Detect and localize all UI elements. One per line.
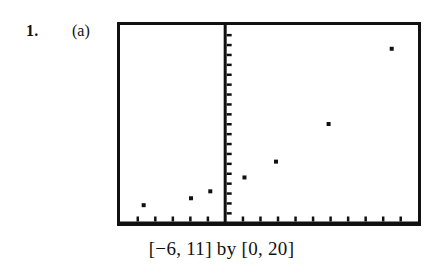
y-axis-tick (227, 133, 232, 136)
y-axis-tick (227, 173, 232, 176)
x-axis-tick (277, 217, 280, 222)
exercise-part-label: (a) (72, 22, 90, 40)
y-axis-tick (227, 64, 232, 67)
y-axis-tick (227, 83, 232, 86)
x-axis-ticks (137, 217, 402, 222)
y-axis-tick (227, 202, 232, 205)
y-axis-tick (227, 44, 232, 47)
data-point (274, 160, 278, 164)
y-axis-tick (227, 113, 232, 116)
y-axis-tick (227, 212, 232, 215)
figure-container: 1. (a) [−6, 11] by [0, 20] (0, 0, 443, 277)
x-axis-tick (294, 217, 297, 222)
y-axis-tick (227, 103, 232, 106)
x-axis-tick (189, 217, 192, 222)
y-axis-line (224, 25, 227, 223)
y-axis-tick (227, 153, 232, 156)
x-axis-tick (154, 217, 157, 222)
data-points (142, 47, 394, 207)
x-axis-tick (382, 217, 385, 222)
x-axis-tick (364, 217, 367, 222)
x-axis-tick (207, 217, 210, 222)
x-axis-tick (312, 217, 315, 222)
y-axis-tick (227, 192, 232, 195)
x-axis-tick (347, 217, 350, 222)
data-point (208, 189, 212, 193)
y-axis-tick (227, 74, 232, 77)
y-axis-tick (227, 93, 232, 96)
x-axis-tick (399, 217, 402, 222)
x-axis-tick (242, 217, 245, 222)
y-axis-tick (227, 34, 232, 37)
x-axis-tick (259, 217, 262, 222)
x-axis-tick (137, 217, 140, 222)
y-axis-tick (227, 54, 232, 57)
x-axis-tick (172, 217, 175, 222)
calculator-screen (117, 22, 421, 226)
exercise-number: 1. (26, 22, 38, 40)
data-point (189, 196, 193, 200)
data-point (242, 175, 246, 179)
y-axis-tick (227, 182, 232, 185)
data-point (142, 203, 146, 207)
scatter-plot (120, 25, 418, 223)
y-axis-tick (227, 123, 232, 126)
data-point (390, 47, 394, 51)
viewing-window-caption: [−6, 11] by [0, 20] (0, 238, 443, 260)
y-axis-tick (227, 163, 232, 166)
y-axis-ticks (227, 34, 232, 215)
x-axis-tick (329, 217, 332, 222)
plot-area (120, 25, 418, 223)
data-point (327, 122, 331, 126)
x-axis-line (120, 222, 418, 224)
y-axis-tick (227, 143, 232, 146)
